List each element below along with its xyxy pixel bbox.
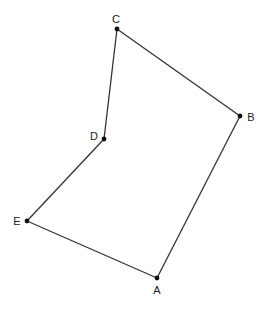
- vertex-label-d: D: [90, 131, 98, 142]
- vertex-point-e: [25, 219, 30, 224]
- vertex-point-b: [238, 114, 243, 119]
- vertex-point-d: [102, 137, 107, 142]
- edge-ea: [27, 221, 157, 278]
- polygon-diagram: [0, 0, 268, 309]
- edge-cd: [104, 29, 117, 139]
- polygon-vertices: [25, 27, 243, 281]
- vertex-label-e: E: [13, 216, 20, 227]
- vertex-label-b: B: [247, 112, 254, 123]
- vertex-point-c: [115, 27, 120, 32]
- edge-de: [27, 139, 104, 221]
- edge-ab: [157, 116, 240, 278]
- polygon-edges: [27, 29, 240, 278]
- vertex-label-a: A: [153, 285, 160, 296]
- vertex-label-c: C: [112, 14, 120, 25]
- edge-bc: [117, 29, 240, 116]
- vertex-point-a: [155, 276, 160, 281]
